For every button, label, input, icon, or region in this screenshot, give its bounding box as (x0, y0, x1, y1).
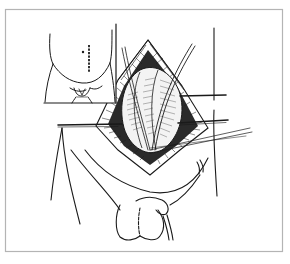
illustration-canvas (0, 0, 290, 264)
surgical-illustration (0, 0, 290, 264)
umbilicus-dot (82, 51, 84, 53)
exposed-organ (122, 67, 182, 152)
figure-caption (0, 254, 290, 264)
inset-diagram (44, 23, 116, 103)
